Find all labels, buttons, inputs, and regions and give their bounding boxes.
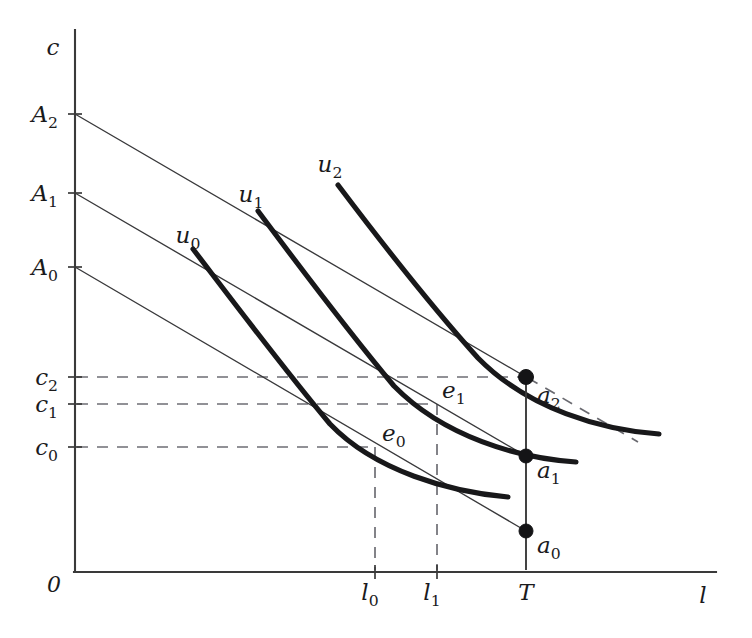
x-tick-label-l0: l0 [361,579,378,610]
curve-label-u0: u0 [176,222,201,253]
indifference-curve-u2 [338,185,659,434]
curve-label-u1: u1 [239,181,264,212]
y-tick-label-c1: c1 [35,391,58,422]
point-a2 [519,370,534,385]
x-tick-label-l1: l1 [423,579,440,610]
indifference-curve-labels: u0 u1 u2 [176,151,343,253]
x-axis-label: l [699,582,706,608]
y-tick-label-A1: A1 [29,180,58,211]
indifference-curves [193,185,659,497]
point-a0 [519,524,533,538]
origin-label: 0 [47,572,61,597]
budget-line-1 [75,193,526,456]
point-a1 [519,449,533,463]
y-tick-labels: A2 A1 A0 c2 c1 c0 [29,101,58,465]
y-tick-label-A0: A0 [29,254,58,285]
tangency-label-e0: e0 [382,420,406,451]
x-tick-label-T: T [518,579,535,605]
tangency-label-e1: e1 [442,377,466,408]
economics-diagram: c l 0 A2 A1 A0 c2 c1 c0 l0 l1 T u0 u1 u2… [0,0,752,638]
figure-root: c l 0 A2 A1 A0 c2 c1 c0 l0 l1 T u0 u1 u2… [0,0,752,638]
curve-label-u2: u2 [318,151,343,182]
point-label-a0: a0 [537,532,561,563]
y-axis-label: c [47,34,60,60]
x-tick-labels: l0 l1 T [361,579,535,610]
budget-lines [75,114,526,531]
indifference-curve-u0 [193,249,508,497]
y-tick-label-c0: c0 [35,434,58,465]
y-tick-label-A2: A2 [29,101,58,132]
